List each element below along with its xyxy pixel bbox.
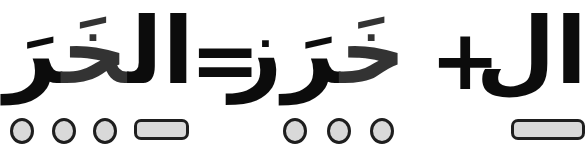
syllable-dot xyxy=(283,118,307,144)
syllable-dot xyxy=(52,118,76,144)
syllable-dot xyxy=(370,118,394,144)
article-bar xyxy=(511,119,585,140)
syllable-dot xyxy=(93,118,117,144)
word-rest: رَز xyxy=(229,0,339,105)
article-bar xyxy=(134,119,189,140)
highlighted-letter-kha: خَ xyxy=(62,0,128,105)
result-word: الخَرَز xyxy=(4,6,194,98)
base-word: خَرَز xyxy=(246,6,406,98)
word-rest: رَز xyxy=(0,0,62,105)
article-word: ال xyxy=(505,6,587,98)
article-al: ال xyxy=(128,0,194,105)
syllable-dot xyxy=(327,118,351,144)
highlighted-letter-kha: خَ xyxy=(340,0,406,105)
syllable-dot xyxy=(10,118,34,144)
